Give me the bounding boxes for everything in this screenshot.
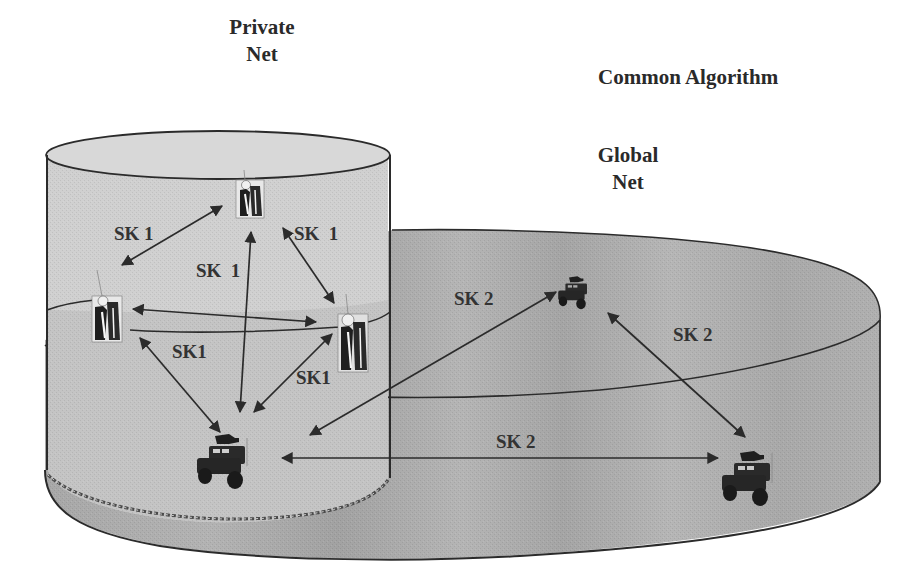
label-sk2-diagonal: SK 2 <box>673 324 713 345</box>
private-cylinder-top <box>46 131 390 179</box>
label-sk1-vertical: SK 1 <box>196 260 240 281</box>
label-sk1-top-right: SK 1 <box>294 223 338 244</box>
network-diagram: SK 1 SK 1 SK 1 SK1 SK1 SK 2 SK 2 SK 2 <box>0 0 921 585</box>
label-sk1-top-left: SK 1 <box>114 223 154 244</box>
label-sk1-left-vehicle: SK1 <box>172 341 207 362</box>
label-sk1-right-vehicle: SK1 <box>296 367 331 388</box>
label-sk2-upper: SK 2 <box>454 288 494 309</box>
label-sk2-horizontal: SK 2 <box>496 431 536 452</box>
